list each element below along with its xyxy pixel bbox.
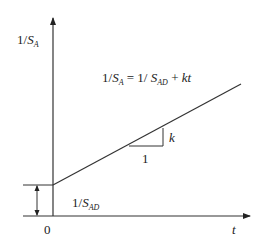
slope-run-label: 1: [142, 151, 149, 166]
diagram-canvas: 1/SA 1/SA = 1/ SAD + kt k 1 1/SAD 0 t: [0, 0, 265, 252]
equation-label: 1/SA = 1/ SAD + kt: [102, 70, 192, 87]
x-axis-label: t: [232, 222, 236, 237]
slope-rise-label: k: [169, 130, 175, 145]
slope-triangle: [129, 128, 163, 146]
linear-line: [53, 84, 241, 185]
intercept-label: 1/SAD: [72, 195, 100, 212]
y-axis-label: 1/SA: [17, 32, 39, 49]
origin-label: 0: [44, 222, 51, 237]
